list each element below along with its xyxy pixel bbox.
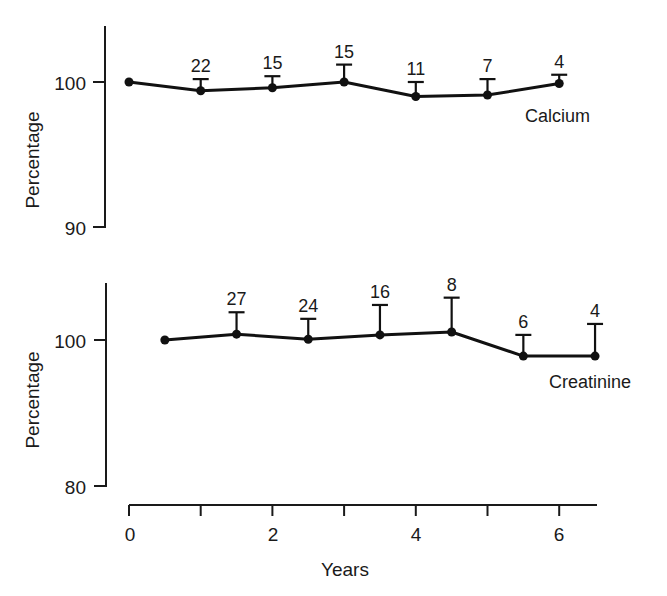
sample-size-label: 15 (334, 42, 354, 62)
data-point (519, 352, 528, 361)
creatinine-panel: 100 80 Percentage 272416864 Creatinine (22, 275, 631, 498)
sample-size-label: 7 (482, 56, 492, 76)
sample-size-label: 11 (406, 59, 425, 79)
data-point (591, 352, 600, 361)
sample-size-label: 27 (227, 289, 247, 309)
sample-size-label: 16 (370, 282, 390, 302)
sample-size-label: 6 (518, 312, 528, 332)
data-point (232, 330, 241, 339)
bottom-ytick-label-100: 100 (54, 331, 86, 352)
creatinine-series-label: Creatinine (549, 372, 631, 392)
data-point (196, 86, 205, 95)
data-point (483, 91, 492, 100)
sample-size-label: 24 (298, 296, 318, 316)
data-point (125, 78, 134, 87)
xtick-label-4: 4 (411, 524, 422, 545)
bottom-ytick-label-80: 80 (65, 477, 86, 498)
sample-size-label: 22 (191, 56, 211, 76)
bottom-y-axis-label: Percentage (22, 351, 43, 448)
data-point (340, 78, 349, 87)
xtick-label-0: 0 (125, 524, 136, 545)
data-point (375, 330, 384, 339)
x-axis-label: Years (321, 559, 369, 580)
xtick-label-6: 6 (554, 524, 565, 545)
creatinine-series: 272416864 (160, 275, 603, 361)
sample-size-label: 4 (590, 301, 600, 321)
sample-size-label: 8 (447, 275, 457, 295)
calcium-panel: 100 90 Percentage 2215151174 Calcium (22, 26, 590, 239)
calcium-series: 2215151174 (125, 42, 568, 101)
top-ytick-label-100: 100 (54, 73, 86, 94)
data-point (160, 336, 169, 345)
data-point (304, 335, 313, 344)
xtick-label-2: 2 (268, 524, 279, 545)
top-y-axis-label: Percentage (22, 111, 43, 208)
chart-figure: 100 90 Percentage 2215151174 Calcium 100… (0, 0, 667, 596)
x-ticks (129, 505, 559, 516)
sample-size-label: 15 (262, 53, 282, 73)
data-point (555, 79, 564, 88)
data-point (268, 83, 277, 92)
x-axis: 0 2 4 6 Years (125, 505, 597, 580)
data-point (411, 92, 420, 101)
top-ytick-label-90: 90 (65, 218, 86, 239)
calcium-series-label: Calcium (525, 106, 590, 126)
sample-size-label: 4 (554, 52, 564, 72)
data-point (447, 327, 456, 336)
